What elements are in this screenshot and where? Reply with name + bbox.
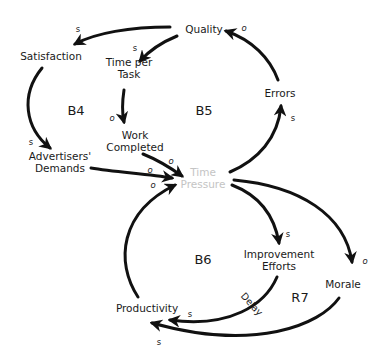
node-time-per-task: Time per Task bbox=[106, 56, 152, 80]
node-errors: Errors bbox=[264, 87, 295, 99]
loop-label-r7: R7 bbox=[291, 290, 308, 305]
link-tpt-workcompleted bbox=[123, 90, 125, 122]
polarity-productivity-timepressure: o bbox=[150, 180, 155, 190]
polarity-quality-satisfaction: s bbox=[76, 24, 80, 34]
loop-label-b5: B5 bbox=[195, 103, 212, 118]
node-satisfaction: Satisfaction bbox=[20, 50, 82, 62]
node-advertisers-demands: Advertisers' Demands bbox=[29, 150, 91, 174]
link-errors-quality bbox=[226, 31, 278, 80]
node-improvement-efforts-line1: Improvement bbox=[244, 248, 315, 260]
link-timepressure-errors bbox=[230, 106, 281, 172]
node-work-completed: Work Completed bbox=[106, 129, 163, 153]
link-satisfaction-advertisers bbox=[28, 68, 50, 148]
link-productivity-timepressure bbox=[125, 185, 175, 297]
polarity-timepressure-errors: s bbox=[291, 113, 295, 123]
polarity-quality-timepertask: s bbox=[133, 43, 137, 53]
node-time-pressure-line2: Pressure bbox=[181, 178, 226, 190]
node-improvement-efforts-line2: Efforts bbox=[244, 260, 315, 272]
node-time-pressure: Time Pressure bbox=[181, 166, 226, 190]
polarity-timepressure-morale: o bbox=[362, 256, 367, 266]
polarity-tpt-workcompleted: o bbox=[109, 113, 114, 123]
node-advertisers-demands-line1: Advertisers' bbox=[29, 150, 91, 162]
node-advertisers-demands-line2: Demands bbox=[29, 162, 91, 174]
link-quality-satisfaction bbox=[75, 27, 170, 44]
polarity-workcompleted-timepressure: o bbox=[168, 156, 173, 166]
link-timepressure-improvement bbox=[232, 185, 279, 243]
link-improvement-productivity bbox=[170, 277, 277, 322]
node-improvement-efforts: Improvement Efforts bbox=[244, 248, 315, 272]
polarity-advertisers-timepressure: o bbox=[147, 165, 152, 175]
link-advertisers-timepressure bbox=[91, 168, 172, 178]
polarity-morale-productivity: s bbox=[157, 337, 161, 347]
node-productivity: Productivity bbox=[116, 302, 178, 314]
node-time-pressure-line1: Time bbox=[181, 166, 226, 178]
node-quality: Quality bbox=[185, 23, 223, 35]
polarity-errors-quality: o bbox=[241, 23, 246, 33]
polarity-satisfaction-advertisers: s bbox=[29, 137, 33, 147]
node-work-completed-line1: Work bbox=[106, 129, 163, 141]
polarity-timepressure-improvement: s bbox=[286, 229, 290, 239]
node-time-per-task-line2: Task bbox=[106, 68, 152, 80]
causal-loop-diagram: Quality Satisfaction Time per Task Error… bbox=[0, 0, 390, 361]
node-work-completed-line2: Completed bbox=[106, 141, 163, 153]
loop-label-b4: B4 bbox=[67, 103, 84, 118]
node-time-per-task-line1: Time per bbox=[106, 56, 152, 68]
node-morale: Morale bbox=[325, 278, 361, 290]
loop-label-b6: B6 bbox=[194, 252, 211, 267]
polarity-improvement-productivity: s bbox=[188, 309, 192, 319]
